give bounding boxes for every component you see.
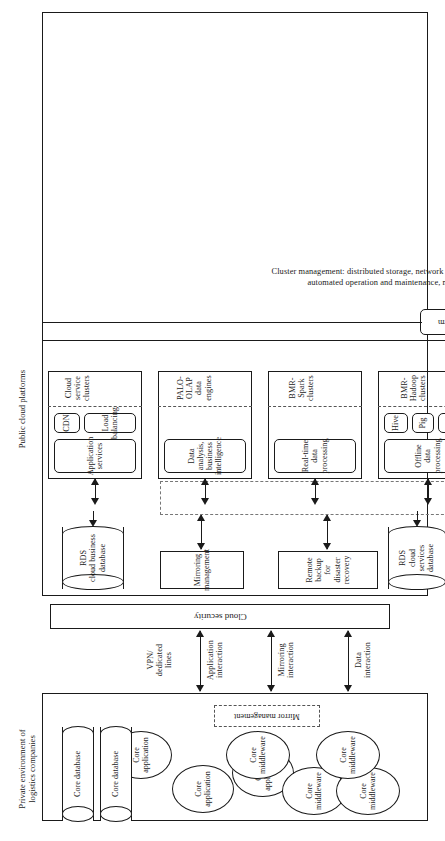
service-tag-cdn[interactable]: CDN [54,413,80,433]
core-database-cylinder[interactable]: Core database [62,727,94,821]
private-environment-title: Private environment of logistics compani… [18,709,38,829]
arrow-head-right [424,478,432,485]
service-column-header[interactable]: Offline data processing [384,439,445,473]
cluster-label: BMR-Hadoop clusters [400,373,428,403]
arrow-head-left [323,543,331,550]
core-application-ellipse[interactable]: Core application [172,765,234,813]
core-database-label: Core database [62,727,94,821]
mirroring-interaction-label: Mirroring interaction [277,631,295,689]
column-divider [48,406,142,407]
column-divider [378,406,445,407]
arrow-head-left [91,498,99,505]
service-column-header[interactable]: Application services [54,439,136,473]
core-database-label: Core database [100,727,132,821]
cloud-management-connector [42,322,422,323]
mirror-management-box[interactable]: Mirror management [214,705,320,727]
cluster-label: PALO-OLAP data engines [176,373,213,403]
core-database-cylinder[interactable]: Core database [100,727,132,821]
core-middleware-ellipse[interactable]: Core middleware [316,731,380,779]
service-tag-load-balancing[interactable]: Load balancing [84,413,136,433]
cloud-management-platform-label: Cloud management platform [438,317,445,326]
storage-label: RDS cloud services database [388,527,445,589]
arrow-head-left [413,520,421,527]
arrow-head-left [196,685,204,692]
service-tag-hbase[interactable]: HBASE [438,413,445,433]
arrow-head-right [323,514,331,521]
public-cloud-title: Public cloud platforms [18,349,28,469]
arrow-head-left [197,543,205,550]
cluster-label: Cloud service clusters [64,373,92,403]
column-divider [158,406,252,407]
cluster-management-note: Cluster management: distributed storage,… [42,267,445,293]
arrow-head-right [201,478,209,485]
arrow-head-right [311,478,319,485]
column-divider [268,406,362,407]
mirroring-management-box[interactable]: Mirroring management [160,551,244,589]
arrow-head-left [201,498,209,505]
arrow-head-right [197,514,205,521]
cloud-management-outer [42,297,445,341]
data-interaction-label: Data interaction [354,631,372,689]
arrow-head-right [196,630,204,637]
architecture-diagram: Private environment of logistics compani… [0,0,445,841]
vpn-dedicated-lines-label: VPN/ dedicated lines [146,631,174,689]
service-tag-hive[interactable]: Hive [384,413,408,433]
arrow-head-left [344,685,352,692]
remote-backup-box[interactable]: Remote backup for disaster recovery [278,551,378,589]
mirror-management-label: Mirror management [234,711,300,720]
cloud-security-bar[interactable]: Cloud security [50,604,390,629]
service-column-header[interactable]: Data analysis, business intelligence [164,439,246,473]
application-interaction-label: Application interaction [206,631,224,689]
arrow-head-right [267,630,275,637]
data-interaction-arrow-line [348,631,349,691]
service-column-header[interactable]: Real-time data processing [274,439,356,473]
arrow-head-right [91,478,99,485]
arrow-head-left [311,498,319,505]
core-middleware-ellipse[interactable]: Core middleware [226,731,290,779]
storage-label: RDS cloud business database [62,527,124,589]
diagram-frame: Private environment of logistics compani… [0,0,445,841]
cloud-management-platform-box[interactable]: Cloud management platform [420,309,445,335]
arrow-head-left [267,685,275,692]
application-interaction-arrow-line [200,631,201,691]
arrow-head-left [89,520,97,527]
mirroring-interaction-arrow-line [271,631,272,691]
service-tag-pig[interactable]: Pig [412,413,434,433]
arrow-head-right [344,630,352,637]
cloud-security-label: Cloud security [194,611,247,621]
arrow-head-left [424,498,432,505]
cluster-label: BMR-Spark clusters [288,373,316,403]
storage-cylinder-rds-services[interactable]: RDS cloud services database [388,527,445,589]
storage-cylinder-rds-business[interactable]: RDS cloud business database [62,527,124,589]
